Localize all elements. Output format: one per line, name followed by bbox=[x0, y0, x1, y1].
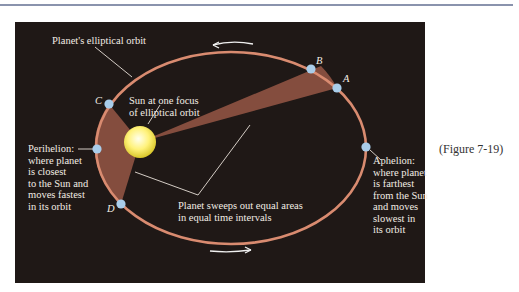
planet-point-d bbox=[116, 199, 125, 208]
orbit-leader-line bbox=[95, 47, 132, 77]
aphelion-label: Aphelion: where planet is farthest from … bbox=[373, 155, 428, 236]
equal-areas-label: Planet sweeps out equal areas in equal t… bbox=[178, 200, 303, 223]
orbit-label: Planet's elliptical orbit bbox=[52, 35, 146, 47]
perihelion-label: Perihelion: where planet is closest to t… bbox=[28, 143, 88, 212]
point-b-label: B bbox=[316, 55, 322, 66]
point-a-label: A bbox=[343, 73, 349, 84]
planet-point-perihelion bbox=[92, 144, 101, 153]
planet-point-b bbox=[306, 64, 315, 73]
planet-point-c bbox=[104, 99, 113, 108]
sun-icon bbox=[124, 126, 156, 158]
bottom-motion-arrow-icon bbox=[210, 250, 251, 252]
point-d-label: D bbox=[107, 203, 115, 214]
sun-label: Sun at one focus of elliptical orbit bbox=[129, 95, 200, 118]
figure-caption: (Figure 7-19) bbox=[439, 142, 503, 157]
point-c-label: C bbox=[95, 95, 102, 106]
planet-point-a bbox=[332, 83, 341, 92]
planet-point-aphelion bbox=[361, 142, 370, 151]
